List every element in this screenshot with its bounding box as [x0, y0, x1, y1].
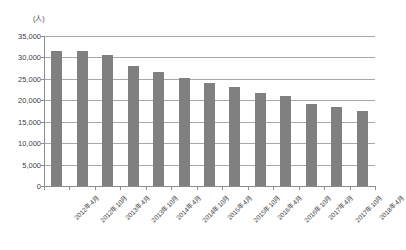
- y-axis-tick-label: 10,000: [3, 139, 41, 148]
- bar[interactable]: [357, 111, 368, 186]
- y-axis-tick-label: 5,000: [3, 160, 41, 169]
- y-axis-tick-label: 0: [3, 182, 41, 191]
- x-axis-tick-mark: [44, 186, 45, 190]
- x-axis-tick-mark: [273, 186, 274, 190]
- y-axis-tick-label: 15,000: [3, 117, 41, 126]
- x-axis-tick-mark: [69, 186, 70, 190]
- x-axis-tick-label: 2014年10月: [199, 192, 231, 224]
- x-axis-tick-mark: [171, 186, 172, 190]
- bar[interactable]: [255, 93, 266, 186]
- x-axis-tick-mark: [95, 186, 96, 190]
- bar[interactable]: [280, 96, 291, 186]
- x-axis-tick-label: 2013年10月: [149, 192, 181, 224]
- x-axis-tick-mark: [375, 186, 376, 190]
- x-axis-tick-label: 2012年4月: [71, 192, 101, 222]
- x-axis-tick-mark: [324, 186, 325, 190]
- bar[interactable]: [306, 104, 317, 186]
- y-axis-tick-label: 35,000: [3, 32, 41, 41]
- bars-group: [44, 36, 375, 186]
- y-axis-ticks-group: 35,00030,00025,00020,00015,00010,0005,00…: [0, 0, 41, 250]
- bar[interactable]: [204, 83, 215, 186]
- bar[interactable]: [51, 51, 62, 186]
- bar[interactable]: [229, 87, 240, 186]
- bar[interactable]: [179, 78, 190, 186]
- x-axis-tick-label: 2015年10月: [250, 192, 282, 224]
- bar[interactable]: [331, 107, 342, 186]
- x-axis-tick-label: 2017年10月: [352, 192, 384, 224]
- x-axis-tick-mark: [248, 186, 249, 190]
- y-axis-tick-label: 20,000: [3, 96, 41, 105]
- x-axis-tick-mark: [299, 186, 300, 190]
- bar[interactable]: [153, 72, 164, 186]
- x-axis-line: [44, 186, 375, 187]
- x-axis-tick-mark: [350, 186, 351, 190]
- x-axis-tick-mark: [120, 186, 121, 190]
- y-axis-tick-label: 30,000: [3, 53, 41, 62]
- x-axis-tick-label: 2012年10月: [98, 192, 130, 224]
- x-axis-tick-mark: [222, 186, 223, 190]
- bar[interactable]: [128, 66, 139, 186]
- x-axis-tick-label: 2016年10月: [301, 192, 333, 224]
- x-axis-tick-mark: [197, 186, 198, 190]
- y-axis-tick-label: 25,000: [3, 74, 41, 83]
- x-axis-tick-mark: [146, 186, 147, 190]
- bar[interactable]: [77, 51, 88, 186]
- bar[interactable]: [102, 55, 113, 186]
